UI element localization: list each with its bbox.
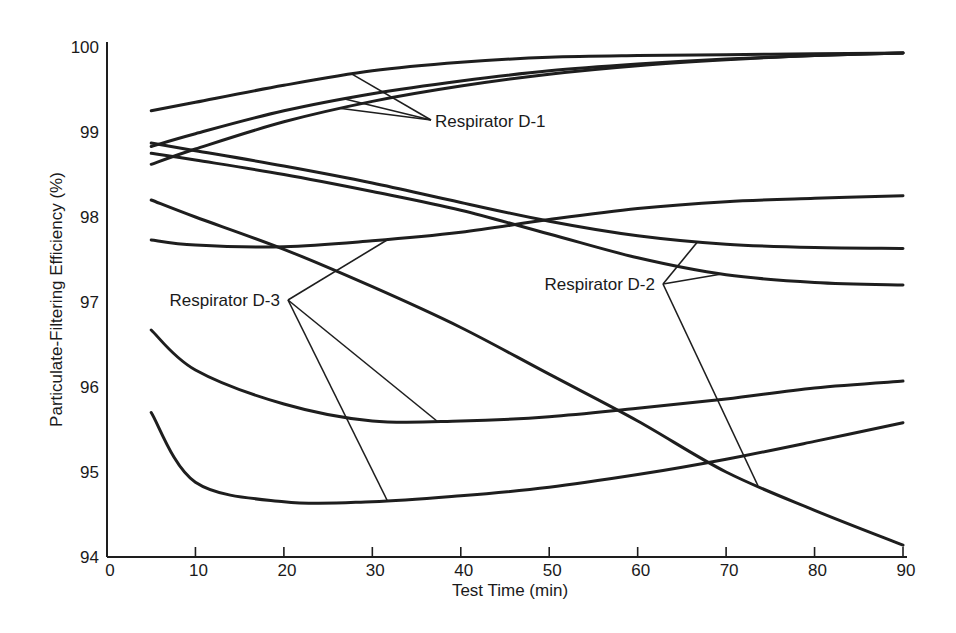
x-axis-title: Test Time (min)	[452, 581, 568, 600]
y-tick-label: 94	[80, 548, 99, 567]
series-line-respirator-d-2-b	[151, 153, 903, 285]
annotation-leader-line	[663, 274, 722, 284]
y-axis-title: Particulate-Filtering Efficiency (%)	[47, 172, 66, 427]
x-tick-label: 40	[454, 561, 473, 580]
y-tick-label: 97	[80, 293, 99, 312]
series-line-respirator-d-1-b	[151, 53, 903, 147]
chart: 0102030405060708090949596979899100 Test …	[0, 0, 956, 633]
annotation-leader-line	[345, 99, 431, 120]
y-tick-label: 99	[80, 123, 99, 142]
annotation-respirator-d1: Respirator D-1	[435, 112, 546, 131]
series-line-respirator-d-1-c	[151, 53, 903, 164]
x-tick-label: 90	[897, 561, 916, 580]
annotation-leader-line	[288, 300, 387, 501]
x-tick-label: 30	[366, 561, 385, 580]
series-line-respirator-d-2-c	[151, 200, 903, 545]
series-line-respirator-d-3-b	[151, 330, 903, 422]
x-tick-label: 0	[105, 561, 114, 580]
x-tick-label: 70	[720, 561, 739, 580]
x-tick-label: 60	[631, 561, 650, 580]
labels: Test Time (min) Particulate-Filtering Ef…	[47, 112, 655, 600]
x-tick-label: 10	[189, 561, 208, 580]
y-tick-label: 100	[71, 38, 99, 57]
annotation-leader-line	[663, 241, 698, 284]
x-tick-label: 20	[277, 561, 296, 580]
annotation-respirator-d3: Respirator D-3	[169, 291, 280, 310]
series-line-respirator-d-3-a	[151, 196, 903, 247]
annotation-leader-line	[341, 109, 431, 120]
series-line-respirator-d-3-c	[151, 413, 903, 504]
y-tick-label: 95	[80, 463, 99, 482]
annotation-leaders	[288, 74, 758, 501]
series-line-respirator-d-2-a	[151, 143, 903, 249]
y-tick-label: 96	[80, 378, 99, 397]
annotation-leader-line	[288, 239, 388, 300]
series-line-respirator-d-1-a	[151, 53, 903, 111]
x-tick-label: 50	[543, 561, 562, 580]
y-tick-label: 98	[80, 208, 99, 227]
annotation-leader-line	[663, 284, 758, 486]
annotation-leader-line	[288, 300, 437, 421]
annotation-respirator-d2: Respirator D-2	[544, 275, 655, 294]
annotation-leader-line	[352, 74, 431, 120]
x-tick-label: 80	[808, 561, 827, 580]
